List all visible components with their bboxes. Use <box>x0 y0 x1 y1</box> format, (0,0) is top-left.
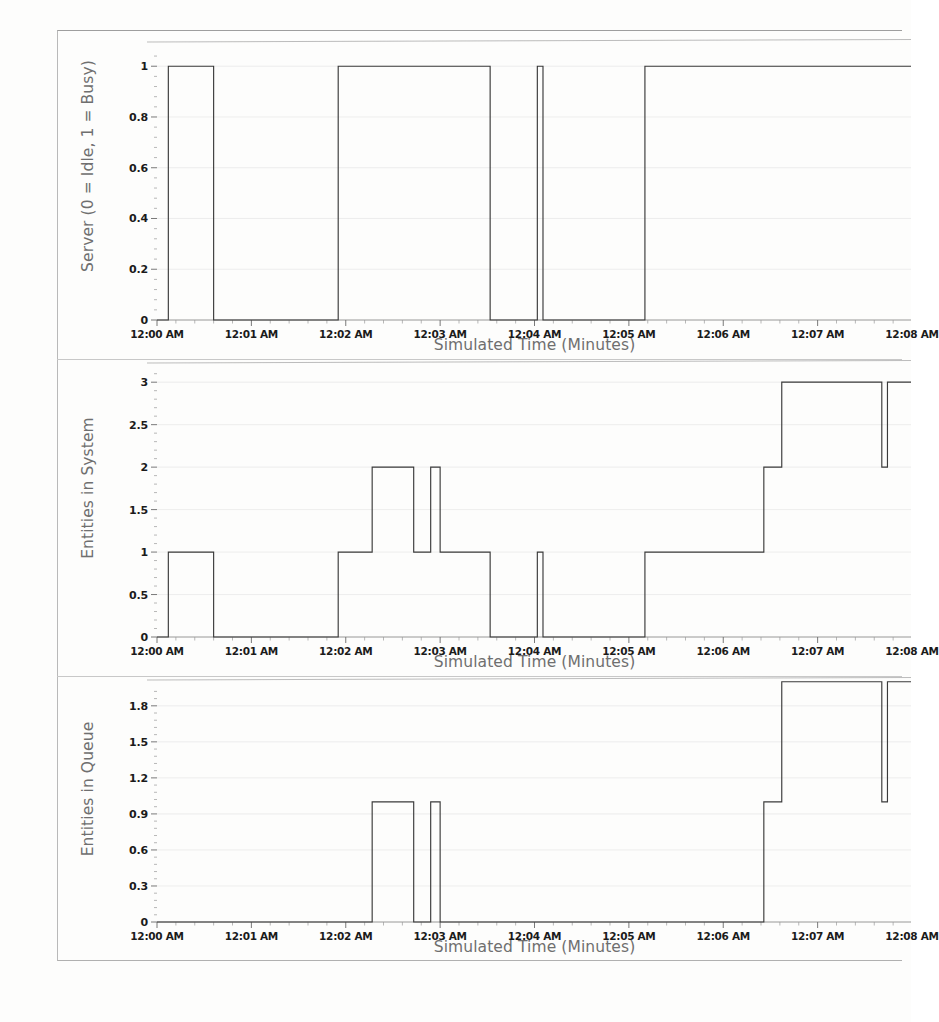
chart-svg-entities-in-system <box>57 360 911 677</box>
y-tick-label: 0.5 <box>129 588 148 601</box>
y-tick-label: 0.6 <box>129 161 148 174</box>
y-tick-label: 0 <box>141 916 148 929</box>
plot-top-rule <box>147 361 911 364</box>
y-tick-label: 0.2 <box>129 263 148 276</box>
y-axis-label: Entities in Queue <box>79 669 97 909</box>
x-axis-label: Simulated Time (Minutes) <box>157 336 912 354</box>
y-tick-label: 0.6 <box>129 843 148 856</box>
y-tick-label: 3 <box>141 376 148 389</box>
chart-panel-entities-in-queue: 00.30.60.91.21.51.812:00 AM12:01 AM12:02… <box>57 677 911 961</box>
y-tick-label: 0 <box>141 631 148 644</box>
chart-svg-server-utilization <box>57 31 911 360</box>
chart-panel-entities-in-system: 00.511.522.5312:00 AM12:01 AM12:02 AM12:… <box>57 360 911 677</box>
plot-area-entities-in-queue: 00.30.60.91.21.51.812:00 AM12:01 AM12:02… <box>57 677 911 961</box>
plot-area-server-utilization: 00.20.40.60.8112:00 AM12:01 AM12:02 AM12… <box>57 31 911 360</box>
chart-panel-server: 00.20.40.60.8112:00 AM12:01 AM12:02 AM12… <box>57 31 911 360</box>
series-line-server-utilization <box>157 66 911 320</box>
y-tick-label: 1.8 <box>129 699 148 712</box>
x-axis-label: Simulated Time (Minutes) <box>157 938 912 956</box>
chart-svg-entities-in-queue <box>57 677 911 961</box>
y-tick-label: 2 <box>141 461 148 474</box>
y-tick-label: 0 <box>141 314 148 327</box>
y-tick-label: 1 <box>141 546 148 559</box>
y-axis-label: Server (0 = Idle, 1 = Busy) <box>79 46 97 286</box>
y-tick-label: 0.4 <box>129 212 148 225</box>
y-tick-label: 1.2 <box>129 771 148 784</box>
y-axis-label: Entities in System <box>79 368 97 608</box>
y-tick-label: 1.5 <box>129 735 148 748</box>
y-tick-label: 1 <box>141 60 148 73</box>
plot-top-rule <box>147 40 911 43</box>
y-tick-label: 0.3 <box>129 879 148 892</box>
y-tick-label: 1.5 <box>129 503 148 516</box>
y-tick-label: 0.8 <box>129 110 148 123</box>
plot-top-rule <box>147 678 911 681</box>
y-tick-label: 2.5 <box>129 418 148 431</box>
y-tick-label: 0.9 <box>129 807 148 820</box>
x-axis-label: Simulated Time (Minutes) <box>157 653 912 671</box>
plot-area-entities-in-system: 00.511.522.5312:00 AM12:01 AM12:02 AM12:… <box>57 360 911 677</box>
